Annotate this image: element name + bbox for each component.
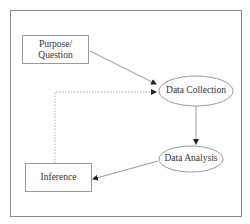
data-analysis-label: Data Analysis <box>159 153 223 164</box>
diagram-canvas <box>0 0 250 224</box>
edge-analysis-to-inference <box>93 161 158 179</box>
edge-inference-to-collection-dotted <box>55 92 156 163</box>
edge-purpose-to-collection <box>90 51 156 84</box>
purpose-label-line2: Question <box>22 50 89 61</box>
inference-label: Inference <box>25 172 92 183</box>
data-collection-label: Data Collection <box>159 85 233 96</box>
purpose-label-line1: Purpose/ <box>22 39 89 50</box>
purpose-label: Purpose/ Question <box>22 39 89 61</box>
